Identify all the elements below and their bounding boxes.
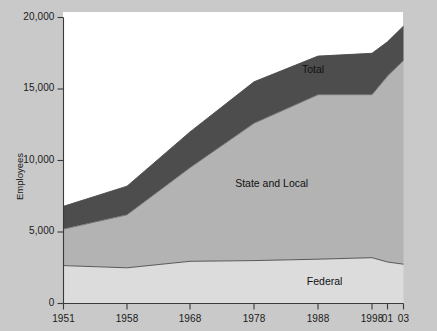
y-axis-tick-label: 0 [0,297,55,308]
chart-canvas [0,0,437,331]
x-axis-ticks [64,304,404,310]
series-label-state-and-local: State and Local [235,177,308,189]
y-axis-tick-label: 10,000 [0,154,55,165]
x-axis-tick-label: 1968 [170,313,210,324]
x-axis-tick-label: 1978 [234,313,274,324]
x-axis-tick-label: 03 [384,313,424,324]
y-axis-title: Employees [14,153,25,200]
series-label-total: Total [302,63,324,75]
y-axis-ticks [58,18,64,304]
y-axis-tick-label: 20,000 [0,11,55,22]
x-axis-tick-label: 1958 [107,313,147,324]
y-axis-tick-label: 15,000 [0,82,55,93]
series-bands [64,26,404,303]
series-label-federal: Federal [307,275,343,287]
x-axis-tick-label: 1951 [44,313,84,324]
y-axis-tick-label: 5,000 [0,225,55,236]
area-chart: 05,00010,00015,00020,000 195119581968197… [0,0,437,331]
x-axis-tick-label: 1988 [298,313,338,324]
